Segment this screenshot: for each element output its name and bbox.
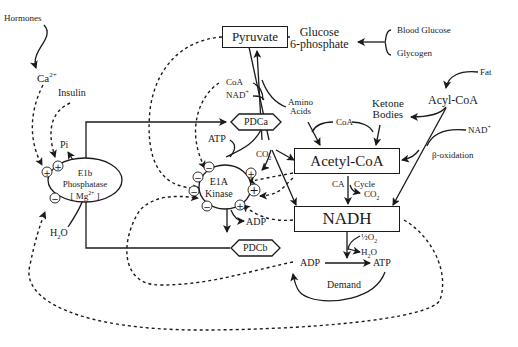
brace (385, 30, 391, 55)
h2o-left-label: H2O (50, 228, 68, 241)
glucose-6-phosphate-label: Glucose 6-phosphate (290, 26, 349, 50)
insulin-label: Insulin (58, 88, 86, 98)
acyl-coa-label: Acyl-CoA (428, 94, 478, 106)
blood-glucose-label: Blood Glucose (397, 26, 451, 35)
adp-kinase-label: ADP (246, 217, 266, 227)
calcium-label: Ca2+ (37, 72, 57, 84)
amino-acids-line (262, 80, 286, 107)
pdcb-label: PDCb (243, 243, 267, 253)
coa-right-line (352, 122, 373, 132)
coa-mid-label: CoA (336, 118, 353, 127)
adp-bottom-label: ADP (300, 258, 320, 268)
pdca-to-acetylcoa-arrow (276, 150, 294, 160)
kinase-to-adp-arrow (231, 210, 244, 221)
svg-text:−: − (190, 187, 198, 197)
svg-text:−: − (205, 163, 213, 173)
svg-text:+: + (236, 201, 244, 211)
demand-label: Demand (327, 280, 361, 290)
nadh-node: NADH (294, 206, 400, 232)
e1b-phosphatase-label: E1b Phosphatase [ Mg2+ ] (53, 168, 117, 201)
fat-to-acylcoa-arrow (446, 72, 478, 88)
fat-label: Fat (480, 68, 492, 77)
coa-nad-inhibits-kinase-dashed (196, 83, 219, 168)
hormones-label: Hormones (4, 14, 42, 23)
coa-left-line (312, 122, 333, 132)
ca-label: CA (332, 180, 345, 189)
glycogen-label: Glycogen (397, 49, 432, 58)
coa-top-label: CoA (226, 78, 243, 87)
o2-input-line (348, 236, 360, 250)
nad-plus-label: NAD+ (468, 125, 491, 135)
amino-acids-label: Amino Acids (288, 98, 313, 117)
co2-right-label: CO2 (364, 190, 379, 202)
beta-oxidation-label: β-oxidation (432, 151, 474, 160)
acetyl-coa-node: Acetyl-CoA (294, 148, 400, 174)
ketone-to-acetylcoa-arrow (376, 125, 380, 145)
e1a-kinase-label: E1A Kinase (205, 176, 233, 199)
h2o-output-arrow (349, 249, 360, 252)
calcium-regulation-dashed (32, 85, 43, 165)
pi-label: Pi (60, 140, 68, 150)
svg-text:+: + (249, 184, 258, 197)
e1b-to-pdca-arrow (86, 122, 226, 160)
svg-text:−: − (194, 173, 202, 183)
pdca-label: PDCa (244, 117, 268, 127)
atp-label: ATP (208, 134, 226, 144)
ketone-bodies-label: Ketone Bodies (372, 98, 404, 120)
pdca-to-nadh-arrow (272, 150, 296, 205)
beta-to-acetylcoa-arrow (402, 150, 419, 160)
hormones-to-calcium-arrow (35, 25, 47, 68)
co2-left-label: CO2 (256, 150, 271, 162)
half-o2-label: ½O2 (361, 233, 377, 245)
acylcoa-to-ketone-arrow (411, 107, 446, 117)
svg-text:−: − (203, 202, 211, 212)
atp-bottom-label: ATP (373, 258, 391, 268)
pyruvate-node: Pyruvate (222, 26, 288, 48)
cycle-label: Cycle (354, 180, 375, 189)
plus-sign: + (43, 168, 51, 178)
nad-top-label: NAD+ (226, 90, 249, 100)
svg-text:+: + (247, 169, 255, 179)
